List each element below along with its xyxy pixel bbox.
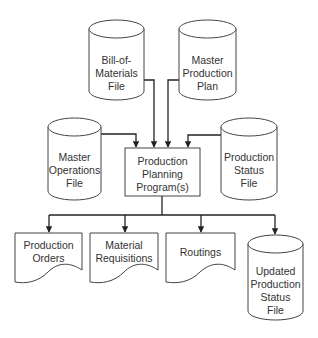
node-label-line: Routings	[180, 246, 221, 258]
node-label-line: Status	[261, 291, 291, 303]
node-label-line: Production	[137, 155, 187, 167]
node-label-line: Production	[23, 239, 73, 251]
node-label-line: Orders	[32, 252, 64, 264]
node-label-line: Plan	[197, 80, 218, 92]
edge-bom-to-ppp	[144, 80, 154, 147]
node-label-line: File	[66, 177, 83, 189]
node-label-line: File	[108, 80, 125, 92]
node-production-planning-programs: Production Planning Program(s)	[125, 148, 200, 196]
node-label-line: Planning	[142, 168, 183, 180]
node-label-line: Program(s)	[136, 181, 189, 193]
node-production-orders: Production Orders	[15, 233, 82, 283]
node-label-line: Production	[250, 278, 300, 290]
edge-mpp-to-ppp	[168, 80, 179, 147]
node-routings: Routings	[166, 233, 235, 283]
node-label-line: File	[241, 177, 258, 189]
node-label-line: Material	[105, 239, 142, 251]
node-label-line: Production	[182, 67, 232, 79]
node-material-requisitions: Material Requisitions	[90, 233, 158, 283]
node-label-line: File	[267, 304, 284, 316]
node-label-line: Requisitions	[95, 252, 152, 264]
node-label-line: Updated	[256, 265, 296, 277]
node-label-line: Bill-of-	[102, 54, 132, 66]
node-label-line: Master	[191, 54, 224, 66]
node-master-operations-file: Master Operations File	[48, 118, 101, 200]
node-master-production-plan: Master Production Plan	[179, 20, 236, 100]
node-label-line: Production	[224, 151, 274, 163]
node-label-line: Master	[58, 151, 91, 163]
edge-psf-to-ppp	[188, 135, 221, 147]
node-production-status-file: Production Status File	[221, 118, 277, 200]
node-label-line: Status	[234, 164, 264, 176]
node-label-line: Materials	[95, 67, 138, 79]
flowchart: Bill-of- Materials File Master Productio…	[0, 0, 318, 338]
node-updated-production-status-file: Updated Production Status File	[248, 235, 303, 320]
node-bill-of-materials-file: Bill-of- Materials File	[89, 20, 144, 100]
edge-mof-to-ppp	[101, 134, 136, 147]
node-label-line: Operations	[49, 164, 100, 176]
